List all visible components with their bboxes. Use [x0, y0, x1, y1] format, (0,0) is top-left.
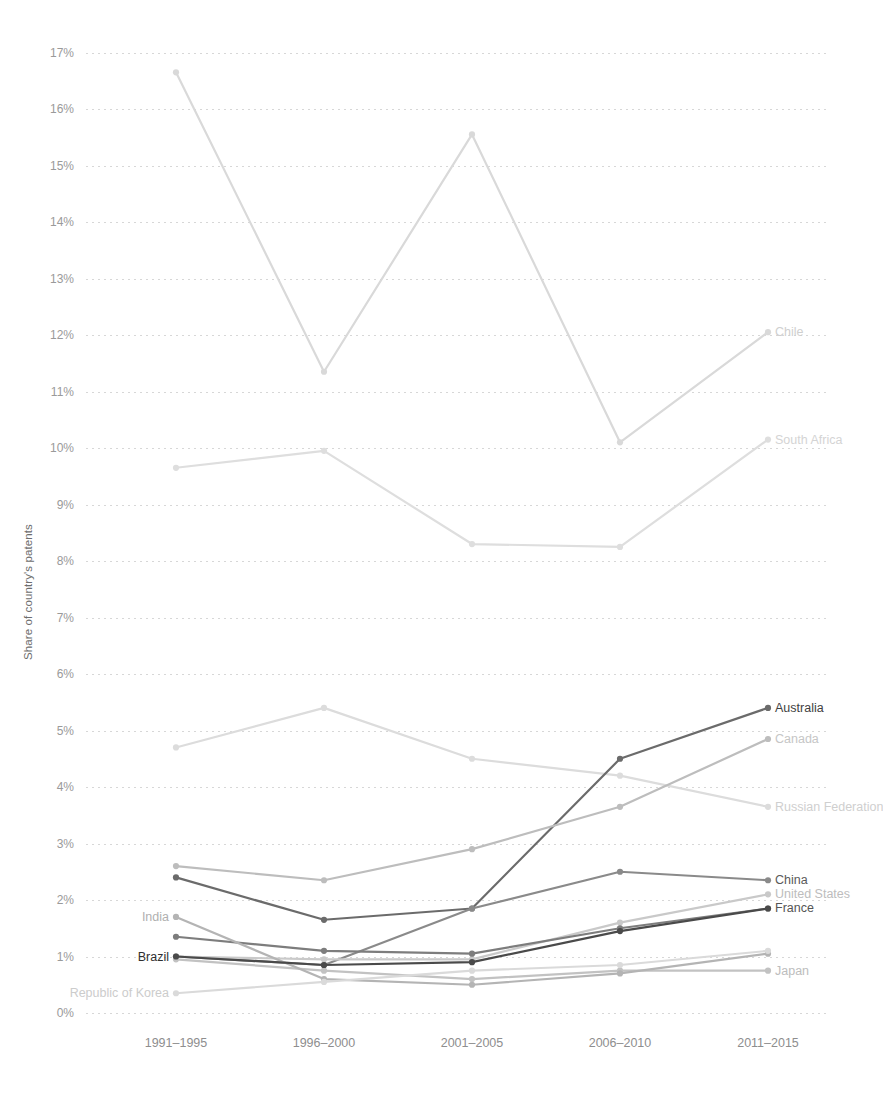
data-point [173, 953, 179, 959]
data-point [765, 804, 771, 810]
series-label-republic-of-korea: Republic of Korea [70, 986, 169, 1000]
series-label-brazil: Brazil [138, 950, 169, 964]
series-line [176, 908, 768, 953]
series-label-united-states: United States [775, 887, 850, 901]
data-point [469, 131, 475, 137]
data-point [321, 979, 327, 985]
series-chile [173, 69, 771, 445]
data-point [617, 544, 623, 550]
data-point [765, 948, 771, 954]
data-point [469, 905, 475, 911]
series-label-russian-federation: Russian Federation [775, 800, 883, 814]
data-point [173, 914, 179, 920]
data-point [469, 846, 475, 852]
series-line [176, 72, 768, 442]
data-point [617, 439, 623, 445]
series-line [176, 708, 768, 920]
data-point [765, 436, 771, 442]
series-line [176, 440, 768, 547]
data-point [173, 874, 179, 880]
data-point [173, 69, 179, 75]
data-point [173, 863, 179, 869]
data-point [321, 448, 327, 454]
data-point [173, 990, 179, 996]
data-point [469, 951, 475, 957]
data-point [173, 744, 179, 750]
series-label-chile: Chile [775, 325, 804, 339]
data-point [617, 773, 623, 779]
data-point [321, 956, 327, 962]
series-russian-federation [173, 705, 771, 810]
series-label-australia: Australia [775, 701, 824, 715]
series-label-south-africa: South Africa [775, 433, 842, 447]
series-label-france: France [775, 901, 814, 915]
data-point [469, 982, 475, 988]
data-point [321, 705, 327, 711]
data-point [469, 541, 475, 547]
series-label-china: China [775, 873, 808, 887]
data-point [321, 877, 327, 883]
data-point [617, 869, 623, 875]
data-point [765, 329, 771, 335]
data-point [321, 917, 327, 923]
data-point [321, 369, 327, 375]
series-label-japan: Japan [775, 964, 809, 978]
data-point [765, 905, 771, 911]
data-point [469, 959, 475, 965]
series-south-africa [173, 436, 771, 550]
series-label-india: India [142, 910, 169, 924]
data-point [765, 877, 771, 883]
data-point [617, 804, 623, 810]
series-label-canada: Canada [775, 732, 819, 746]
data-point [321, 948, 327, 954]
series-line [176, 894, 768, 959]
data-point [321, 962, 327, 968]
data-point [469, 756, 475, 762]
data-point [765, 891, 771, 897]
series-australia [173, 705, 771, 923]
data-point [617, 970, 623, 976]
data-point [617, 928, 623, 934]
data-point [321, 968, 327, 974]
data-point [173, 934, 179, 940]
data-point [617, 962, 623, 968]
data-point [173, 465, 179, 471]
data-point [469, 976, 475, 982]
data-point [469, 968, 475, 974]
series-france [173, 905, 771, 956]
data-point [765, 705, 771, 711]
data-point [765, 736, 771, 742]
data-point [617, 756, 623, 762]
data-point [765, 968, 771, 974]
data-point [617, 920, 623, 926]
